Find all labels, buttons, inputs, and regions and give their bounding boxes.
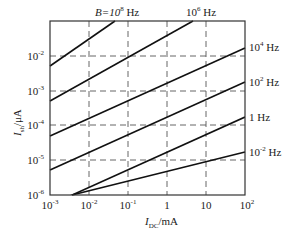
svg-text:10: 10 <box>201 199 213 211</box>
label-1hz: 1 Hz <box>249 111 270 123</box>
line-1 <box>50 117 245 205</box>
series-lines <box>50 21 245 205</box>
svg-text:10-5: 10-5 <box>27 153 44 166</box>
line-1e8 <box>50 21 115 66</box>
line-1e6 <box>50 21 193 101</box>
svg-text:10-3: 10-3 <box>27 84 44 97</box>
svg-text:10-4: 10-4 <box>27 118 44 131</box>
line-1e-2 <box>72 152 245 195</box>
svg-text:10-3: 10-3 <box>42 198 59 211</box>
x-tick-labels: 10-3 10-2 10-1 1 10 102 <box>42 198 255 211</box>
label-1e2: 102 Hz <box>249 75 279 88</box>
svg-text:1: 1 <box>164 199 170 211</box>
label-1e8: B=108 Hz <box>95 5 139 18</box>
shot-noise-chart: B=108 Hz 106 Hz 104 Hz 102 Hz 1 Hz 10-2 … <box>0 0 290 235</box>
label-1e6: 106 Hz <box>186 5 216 18</box>
line-1e2 <box>50 82 245 170</box>
x-axis-label: IDC/mA <box>144 215 178 230</box>
svg-text:10-2: 10-2 <box>27 49 44 62</box>
label-1e4: 104 Hz <box>249 40 279 53</box>
svg-text:102: 102 <box>240 198 255 211</box>
y-tick-labels: 10-2 10-3 10-4 10-5 10-6 <box>27 49 44 201</box>
line-1e4 <box>50 48 245 136</box>
label-1e-2: 10-2 Hz <box>249 145 282 158</box>
svg-text:10-2: 10-2 <box>81 198 98 211</box>
svg-text:10-1: 10-1 <box>120 198 137 211</box>
y-axis-label: Ish/μA <box>11 109 26 137</box>
